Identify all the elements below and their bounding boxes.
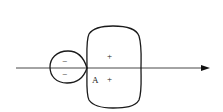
small-lobe-sign-top: − [62,56,67,66]
orbital-diagram: − − + + A [0,0,223,112]
axis-arrow-icon [201,65,210,71]
point-label-a: A [92,75,99,85]
small-lobe-sign-bottom: − [62,69,67,79]
large-lobe [87,26,141,108]
large-lobe-sign-top: + [107,51,112,61]
small-lobe [50,51,87,83]
large-lobe-sign-bottom: + [107,74,112,84]
